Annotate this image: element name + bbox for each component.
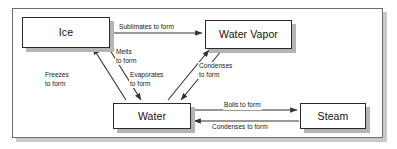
- edge-label-melts-line1: Melts: [116, 48, 132, 55]
- edge-label-evaporates-line1: Evaporates: [130, 71, 163, 78]
- edge-label-evaporates-line2: to form: [130, 80, 151, 87]
- edge-label-condenses-vapor-line2: to form: [199, 71, 220, 78]
- node-water-vapor-label: Water Vapor: [219, 29, 278, 40]
- diagram-canvas: Ice Water Vapor Water Steam Sublimates t…: [0, 0, 397, 149]
- edge-label-condenses-vapor-line1: Condenses: [199, 62, 232, 69]
- edge-label-melts: Melts to form: [115, 48, 138, 65]
- node-ice[interactable]: Ice: [22, 17, 110, 48]
- node-ice-label: Ice: [59, 27, 73, 38]
- edge-label-freezes-line2: to form: [45, 80, 66, 87]
- node-steam-label: Steam: [318, 111, 349, 122]
- edge-label-condenses-vapor: Condenses to form: [198, 62, 233, 79]
- edge-label-sublimates-line1: Sublimates to form: [119, 23, 174, 30]
- edge-label-sublimates: Sublimates to form: [118, 23, 175, 32]
- node-water-vapor[interactable]: Water Vapor: [205, 20, 292, 49]
- edge-label-boils: Boils to form: [223, 101, 262, 110]
- edge-label-freezes: Freezes to form: [44, 71, 70, 88]
- edge-label-melts-line2: to form: [116, 57, 137, 64]
- edge-label-boils-line1: Boils to form: [224, 101, 261, 108]
- node-steam[interactable]: Steam: [300, 103, 366, 129]
- node-water[interactable]: Water: [113, 103, 191, 129]
- edge-label-evaporates: Evaporates to form: [129, 71, 164, 88]
- edge-label-condenses-steam: Condenses to form: [211, 123, 269, 132]
- node-water-label: Water: [138, 111, 166, 122]
- edge-label-condenses-steam-line1: Condenses to form: [212, 123, 268, 130]
- edge-label-freezes-line1: Freezes: [45, 71, 69, 78]
